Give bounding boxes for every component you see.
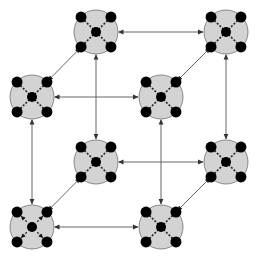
- corner-dot: [235, 171, 246, 182]
- corner-dot: [12, 106, 23, 117]
- edges-layer: [32, 32, 226, 227]
- corner-dot: [235, 41, 246, 52]
- corner-dot: [170, 106, 181, 117]
- center-dot: [91, 27, 101, 37]
- corner-dot: [105, 171, 116, 182]
- corner-dot: [41, 207, 52, 218]
- node-back-top-left: [74, 10, 118, 54]
- center-dot: [221, 157, 231, 167]
- center-dot: [27, 222, 37, 232]
- corner-dot: [76, 142, 87, 153]
- edge-back-bottom-right-to-front-bottom-right: [177, 178, 209, 210]
- corner-dot: [206, 142, 217, 153]
- node-front-bottom-right: [139, 205, 183, 249]
- corner-dot: [105, 41, 116, 52]
- corner-dot: [105, 12, 116, 23]
- corner-dot: [41, 236, 52, 247]
- center-dot: [156, 222, 166, 232]
- edge-back-bottom-left-to-front-bottom-left: [48, 178, 80, 210]
- corner-dot: [76, 171, 87, 182]
- corner-dot: [41, 106, 52, 117]
- nodes-layer: [10, 10, 248, 249]
- corner-dot: [12, 207, 23, 218]
- node-front-top-left: [10, 75, 54, 119]
- corner-dot: [12, 77, 23, 88]
- corner-dot: [141, 236, 152, 247]
- edge-back-top-right-to-front-top-right: [177, 48, 209, 80]
- corner-dot: [12, 236, 23, 247]
- corner-dot: [206, 41, 217, 52]
- corner-dot: [76, 41, 87, 52]
- corner-dot: [170, 77, 181, 88]
- cube-network-diagram: [0, 0, 257, 258]
- corner-dot: [235, 12, 246, 23]
- corner-dot: [141, 77, 152, 88]
- corner-dot: [141, 207, 152, 218]
- center-dot: [27, 92, 37, 102]
- center-dot: [91, 157, 101, 167]
- corner-dot: [141, 106, 152, 117]
- diagram-canvas: [0, 0, 257, 258]
- node-back-top-right: [204, 10, 248, 54]
- corner-dot: [76, 12, 87, 23]
- corner-dot: [235, 142, 246, 153]
- corner-dot: [41, 77, 52, 88]
- node-back-bottom-right: [204, 140, 248, 184]
- center-dot: [221, 27, 231, 37]
- corner-dot: [105, 142, 116, 153]
- edge-back-top-left-to-front-top-left: [48, 48, 80, 80]
- corner-dot: [170, 207, 181, 218]
- node-front-top-right: [139, 75, 183, 119]
- corner-dot: [206, 171, 217, 182]
- node-front-bottom-left: [10, 205, 54, 249]
- corner-dot: [206, 12, 217, 23]
- node-back-bottom-left: [74, 140, 118, 184]
- corner-dot: [170, 236, 181, 247]
- center-dot: [156, 92, 166, 102]
